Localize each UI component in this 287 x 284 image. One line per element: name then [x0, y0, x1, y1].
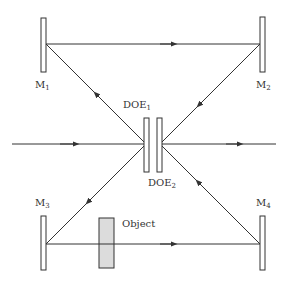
label-doe2: DOE2: [148, 177, 176, 190]
label-m2: M2: [256, 79, 271, 92]
object-sample: [99, 218, 114, 268]
mirror-m3: [41, 216, 46, 270]
beam-m2-to-doe: [160, 44, 260, 144]
label-m3: M3: [35, 197, 50, 210]
beam-m4-to-doe: [160, 144, 260, 244]
label-object: Object: [122, 218, 155, 229]
label-m4: M4: [256, 197, 271, 210]
doe2-plate: [157, 118, 162, 172]
doe1-plate: [144, 118, 149, 172]
beam-m2-to-doe-arrow: [199, 97, 207, 105]
beam-doe-to-m3-arrow: [88, 194, 96, 202]
mirror-m2: [260, 17, 265, 72]
doe-plates: [144, 118, 162, 172]
beam-doe-to-m1-arrow: [96, 94, 104, 102]
mirror-m4: [260, 216, 265, 270]
label-m1: M1: [35, 79, 50, 92]
mirror-m1: [41, 18, 46, 72]
beam-m4-to-doe-arrow: [198, 182, 206, 190]
interferometer-diagram: M1 M2 M3 M4 DOE1 DOE2 Object: [0, 0, 287, 284]
label-doe1: DOE1: [123, 99, 151, 112]
